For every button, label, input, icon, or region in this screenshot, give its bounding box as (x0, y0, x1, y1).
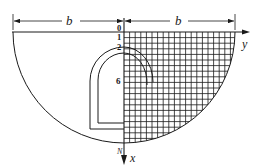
mesh-grid (124, 32, 236, 144)
point-N-label: N (116, 147, 123, 156)
axis-y-label: y (241, 37, 248, 51)
y-axis-arrow-icon (242, 30, 250, 35)
dimension-right-label: b (175, 13, 182, 28)
tunnel-grid-diagram: b b 0 1 2 6 y x N (0, 0, 263, 167)
dimension-left-label: b (66, 13, 73, 28)
x-axis-arrow-icon (121, 155, 127, 165)
axis-x-label: x (129, 151, 136, 165)
depth-label-2: 2 (117, 42, 121, 52)
depth-label-1: 1 (117, 32, 121, 42)
depth-label-6: 6 (116, 76, 121, 86)
